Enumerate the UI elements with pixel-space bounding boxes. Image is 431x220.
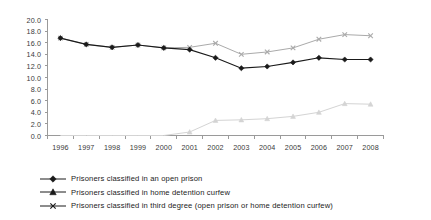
y-axis-tick-label: 20.0 xyxy=(8,15,41,24)
data-point-diamond-marker xyxy=(239,66,244,71)
x-axis-tick-label: 2001 xyxy=(181,143,197,152)
x-axis-tick-label: 1997 xyxy=(78,143,94,152)
y-axis-tick-label: 18.0 xyxy=(8,27,41,36)
x-axis-tick-label: 1996 xyxy=(52,143,68,152)
legend-item: Prisoners classified in an open prison xyxy=(38,172,428,186)
legend-triangle-icon xyxy=(38,186,68,198)
x-axis-tick-label: 2002 xyxy=(207,143,223,152)
x-axis-tick-label: 2008 xyxy=(362,143,378,152)
data-point-diamond-marker xyxy=(290,60,295,65)
data-point-diamond-marker xyxy=(316,55,321,60)
legend-item: Prisoners classified in home detention c… xyxy=(38,186,428,200)
series-diamond xyxy=(58,35,373,70)
y-axis-tick-label: 2.0 xyxy=(8,119,41,128)
y-axis-tick-label: 8.0 xyxy=(8,85,41,94)
legend-x-icon xyxy=(38,200,68,212)
series-x xyxy=(58,32,373,56)
legend-item-label: Prisoners classified in an open prison xyxy=(68,174,203,183)
data-point-diamond-marker xyxy=(342,57,347,62)
data-series-layer xyxy=(58,32,373,135)
x-axis-tick-label: 2003 xyxy=(233,143,249,152)
legend-item-label: Prisoners classified in third degree (op… xyxy=(68,201,333,210)
x-axis-tick-label: 2006 xyxy=(311,143,327,152)
x-axis-tick-label: 2007 xyxy=(337,143,353,152)
x-axis-tick-label: 1999 xyxy=(130,143,146,152)
x-axis-tick-label: 2000 xyxy=(156,143,172,152)
data-point-diamond-marker xyxy=(50,176,56,182)
y-axis-tick-label: 16.0 xyxy=(8,38,41,47)
x-axis-tick-label: 2005 xyxy=(285,143,301,152)
y-axis-tick-label: 4.0 xyxy=(8,108,41,117)
y-axis-tick-label: 0.0 xyxy=(8,131,41,140)
y-axis-tick-label: 10.0 xyxy=(8,73,41,82)
y-axis-tick-label: 14.0 xyxy=(8,50,41,59)
data-point-diamond-marker xyxy=(213,55,218,60)
line-chart-figure: 0.02.04.06.08.010.012.014.016.018.020.0 … xyxy=(0,0,431,220)
legend-item: Prisoners classified in third degree (op… xyxy=(38,199,428,213)
legend-item-label: Prisoners classified in home detention c… xyxy=(68,188,230,197)
series-triangle xyxy=(60,101,373,135)
chart-legend: Prisoners classified in an open prisonPr… xyxy=(38,172,428,213)
y-axis-tick-label: 12.0 xyxy=(8,61,41,70)
x-axis-tick-label: 1998 xyxy=(104,143,120,152)
data-point-diamond-marker xyxy=(368,57,373,62)
y-axis-tick-label: 6.0 xyxy=(8,96,41,105)
legend-diamond-icon xyxy=(38,173,68,185)
x-axis-tick-label: 2004 xyxy=(259,143,275,152)
data-point-diamond-marker xyxy=(265,64,270,69)
